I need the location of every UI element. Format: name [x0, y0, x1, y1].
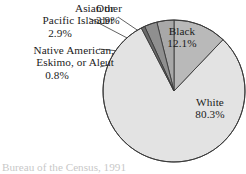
pie-label-white-line1: White — [183, 96, 237, 108]
pie-chart-figure: Asian or Pacific Islander 2.9% Native Am… — [0, 0, 246, 174]
pie-label-native-line1: Native American, — [0, 44, 114, 56]
pie-label-native-american: Native American, Eskimo, or Aleut 0.8% — [0, 44, 114, 81]
pie-label-other-percent: 3.9% — [96, 14, 142, 26]
source-note: Bureau of the Census, 1991 — [2, 161, 126, 173]
pie-label-black: Black 12.1% — [155, 25, 209, 50]
pie-label-white-percent: 80.3% — [183, 108, 237, 120]
pie-label-other-line1: Other — [96, 2, 142, 14]
pie-label-black-line1: Black — [155, 25, 209, 37]
pie-label-black-percent: 12.1% — [155, 37, 209, 49]
pie-label-native-line2: Eskimo, or Aleut — [0, 56, 114, 68]
pie-label-asian-percent: 2.9% — [6, 27, 114, 39]
pie-label-white: White 80.3% — [183, 96, 237, 121]
pie-label-other: Other 3.9% — [96, 2, 142, 27]
pie-label-native-percent: 0.8% — [0, 69, 114, 81]
